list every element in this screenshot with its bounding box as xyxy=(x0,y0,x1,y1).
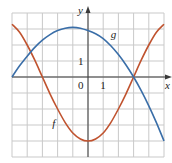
curve-label-f: f xyxy=(52,117,57,129)
x-tick-label-1: 1 xyxy=(100,79,106,91)
y-axis-label: y xyxy=(77,4,83,16)
y-tick-label-1: 1 xyxy=(78,55,84,67)
origin-label: 0 xyxy=(78,79,84,91)
x-axis-label: x xyxy=(164,79,170,91)
function-graph: y x 0 1 1 f g xyxy=(0,0,172,163)
curve-label-g: g xyxy=(111,28,117,40)
labels: y x 0 1 1 f g xyxy=(52,4,170,129)
y-axis-arrow-icon xyxy=(86,6,91,13)
